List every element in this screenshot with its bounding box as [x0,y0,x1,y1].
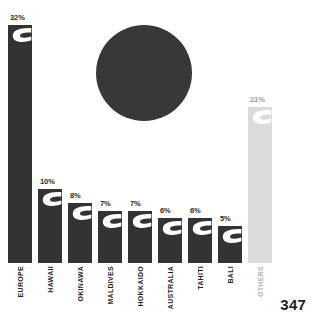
data-label-others: 21% [250,95,265,104]
category-label-tahiti: TAHITI [197,266,205,290]
infographic-page: 32%EUROPE10%HAWAII8%OKINAWA7%MALDIVES7%H… [0,0,311,319]
bar-shape [188,218,212,263]
bar-australia [158,218,182,263]
category-label-australia: AUSTRALIA [167,266,175,309]
bar-maldives [98,211,122,263]
bar-hokkaido [128,211,152,263]
bar-shape [248,107,272,263]
bar-shape [218,226,242,263]
category-label-okinawa: OKINAWA [77,266,85,302]
page-number: 347 [280,296,306,313]
data-label-tahiti: 6% [190,206,201,215]
category-label-maldives: MALDIVES [107,266,115,305]
data-label-australia: 6% [160,206,171,215]
category-label-hokkaido: HOKKAIDO [137,266,145,307]
bar-shape [38,189,62,263]
bar-shape [68,203,92,263]
bar-europe [8,25,32,263]
category-label-hawaii: HAWAII [47,266,55,293]
bar-shape [158,218,182,263]
bar-okinawa [68,203,92,263]
data-label-hawaii: 10% [40,177,55,186]
data-label-bali: 5% [220,214,231,223]
bar-shape [8,25,32,263]
bar-shape [128,211,152,263]
category-label-europe: EUROPE [17,266,25,297]
bar-tahiti [188,218,212,263]
data-label-okinawa: 8% [70,191,81,200]
data-label-europe: 32% [10,13,25,22]
bar-chart-plot-area: 32%EUROPE10%HAWAII8%OKINAWA7%MALDIVES7%H… [0,0,311,319]
bar-shape [98,211,122,263]
bar-hawaii [38,189,62,263]
bar-bali [218,226,242,263]
category-label-bali: BALI [227,266,235,284]
data-label-hokkaido: 7% [130,199,141,208]
data-label-maldives: 7% [100,199,111,208]
bar-others [248,107,272,263]
category-label-others: OTHERS [257,266,265,297]
